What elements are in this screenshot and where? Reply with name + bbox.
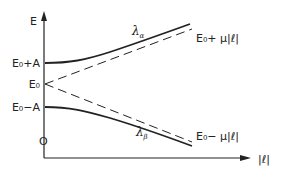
origin-label: O	[39, 135, 48, 148]
tick-label-e0-plus-a: E₀+A	[12, 57, 41, 70]
curve-label-lambda-beta: λβ	[135, 125, 148, 141]
asymptote-lower	[45, 84, 192, 142]
x-axis-arrow-icon	[240, 155, 251, 161]
tick-label-e0: E₀	[29, 78, 41, 91]
y-axis-arrow-icon	[41, 11, 47, 21]
asymptote-label-upper: E₀+ μ|ℓ|	[196, 32, 239, 45]
y-axis-label: E	[30, 15, 37, 28]
asymptote-upper	[45, 29, 192, 84]
asymptote-label-lower: E₀− μ|ℓ|	[196, 130, 239, 143]
tick-label-e0-minus-a: E₀−A	[12, 101, 41, 114]
curve-label-lambda-alpha: λα	[131, 24, 145, 40]
avoided-crossing-diagram: E O E₀+A E₀ E₀−A λα λβ E₀+ μ|ℓ| E₀− μ|ℓ|…	[0, 0, 287, 169]
x-axis-label: |ℓ|	[258, 153, 270, 166]
